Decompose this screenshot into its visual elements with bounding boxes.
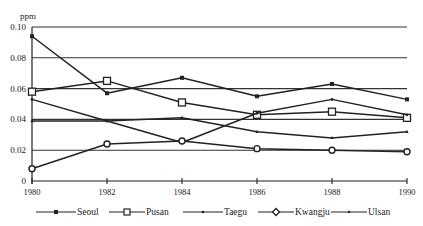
legend-label: Taegu xyxy=(224,207,247,217)
y-tick-label: 0.04 xyxy=(10,114,26,124)
triangle-marker-icon xyxy=(331,207,367,217)
legend-label: Kwangju xyxy=(295,207,330,217)
series-kwangju xyxy=(29,138,410,172)
legend-label: Ulsan xyxy=(368,207,390,217)
y-tick-label: 0.02 xyxy=(10,145,26,155)
series-seoul xyxy=(30,34,409,101)
x-tick-label: 1984 xyxy=(174,187,192,197)
data-series xyxy=(29,34,411,171)
open-square-marker-icon xyxy=(109,207,145,217)
y-tick-label: 0.10 xyxy=(10,22,26,32)
y-tick-label: 0.08 xyxy=(10,53,26,63)
y-tick-label: 0.06 xyxy=(10,84,26,94)
legend-item-kwangju: Kwangju xyxy=(258,204,330,220)
open-diamond-marker-icon xyxy=(258,207,294,217)
x-tick-label: 1986 xyxy=(249,187,266,197)
legend-label: Pusan xyxy=(146,207,169,217)
legend-item-pusan: Pusan xyxy=(109,204,169,220)
x-tick-label: 1980 xyxy=(24,187,41,197)
x-tick-label: 1988 xyxy=(324,187,341,197)
dot-marker-icon xyxy=(183,207,223,217)
legend-label: Seoul xyxy=(77,207,99,217)
legend-item-taegu: Taegu xyxy=(183,204,247,220)
gridlines xyxy=(32,27,407,184)
plot-area: ppm 00.020.040.060.080.10 19801982198419… xyxy=(0,0,423,204)
x-tick-label: 1982 xyxy=(99,187,116,197)
legend-item-ulsan: Ulsan xyxy=(331,204,390,220)
legend: Seoul Pusan Taegu Kwangju Ulsan xyxy=(0,204,423,222)
filled-square-marker-icon xyxy=(36,207,76,217)
y-axis-unit: ppm xyxy=(20,11,36,21)
y-axis-ticks: 00.020.040.060.080.10 xyxy=(10,22,26,186)
y-tick-label: 0 xyxy=(22,176,27,186)
legend-item-seoul: Seoul xyxy=(36,204,99,220)
line-chart: ppm 00.020.040.060.080.10 19801982198419… xyxy=(0,0,423,226)
x-tick-label: 1990 xyxy=(399,187,416,197)
